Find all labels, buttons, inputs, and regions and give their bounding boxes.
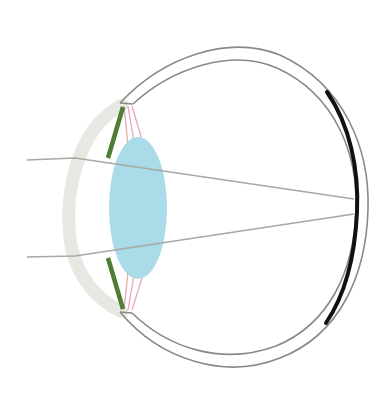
sclera-cap-bottom bbox=[120, 312, 132, 313]
sclera-cap-top bbox=[120, 103, 133, 104]
lens bbox=[109, 137, 167, 279]
eye-diagram bbox=[0, 0, 390, 395]
